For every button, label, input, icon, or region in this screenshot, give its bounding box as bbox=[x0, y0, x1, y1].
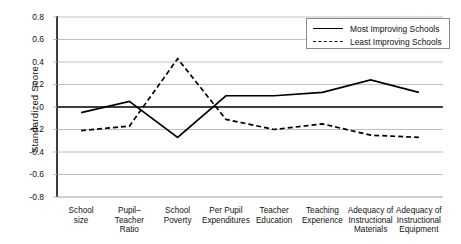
x-axis-tick-label-line: Teaching bbox=[298, 206, 346, 216]
x-axis-tick-label-line: Ratio bbox=[105, 225, 153, 235]
x-axis-tick-label-line: Teacher bbox=[105, 216, 153, 226]
x-axis-tick-label-line: Instructional bbox=[347, 216, 395, 226]
x-axis-tick-label-line: size bbox=[57, 216, 105, 226]
x-axis-tick-label-line: Experience bbox=[298, 216, 346, 226]
x-axis-tick-label-line: Materials bbox=[347, 225, 395, 235]
x-axis-tick-label: Schoolsize bbox=[57, 206, 105, 225]
x-axis-tick-label-line: Per Pupil bbox=[202, 206, 250, 216]
legend-label: Most Improving Schools bbox=[350, 24, 439, 34]
x-axis-tick-label: TeacherEducation bbox=[250, 206, 298, 225]
x-axis-tick-label: Per PupilExpenditures bbox=[202, 206, 250, 225]
x-axis-tick-label-line: Teacher bbox=[250, 206, 298, 216]
x-axis-tick-label-line: Poverty bbox=[154, 216, 202, 226]
x-axis-tick-label: SchoolPoverty bbox=[154, 206, 202, 225]
legend-label: Least Improving Schools bbox=[350, 37, 442, 47]
x-axis-tick-label-line: School bbox=[57, 206, 105, 216]
x-axis-tick-label-line: Adequacy of bbox=[395, 206, 443, 216]
x-axis-tick-label-line: Expenditures bbox=[202, 216, 250, 226]
x-axis-tick-label: TeachingExperience bbox=[298, 206, 346, 225]
x-axis-tick-label-line: Pupil– bbox=[105, 206, 153, 216]
legend-item-most-improving: Most Improving Schools bbox=[313, 22, 439, 35]
line-chart: Standardized Score 0.80.60.40.20-0.2-0.4… bbox=[0, 0, 461, 244]
x-axis-tick-label-line: Equipment bbox=[395, 225, 443, 235]
legend-solid-line-icon bbox=[313, 28, 343, 30]
x-axis-tick-label-line: Instructional bbox=[395, 216, 443, 226]
x-axis-tick-label-line: Education bbox=[250, 216, 298, 226]
x-axis-tick-label: Pupil–TeacherRatio bbox=[105, 206, 153, 235]
x-axis-tick-label-line: School bbox=[154, 206, 202, 216]
legend-item-least-improving: Least Improving Schools bbox=[313, 35, 442, 48]
chart-legend: Most Improving Schools Least Improving S… bbox=[306, 18, 450, 49]
series-line-1 bbox=[81, 80, 419, 137]
legend-dashed-line-icon bbox=[313, 41, 343, 43]
series-line-2 bbox=[81, 59, 419, 138]
x-axis-tick-label-line: Adequacy of bbox=[347, 206, 395, 216]
x-axis-tick-label: Adequacy ofInstructionalMaterials bbox=[347, 206, 395, 235]
x-axis-tick-label: Adequacy ofInstructionalEquipment bbox=[395, 206, 443, 235]
